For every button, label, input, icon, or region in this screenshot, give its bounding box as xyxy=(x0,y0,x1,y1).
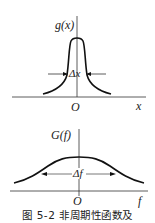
bottom-width-label: Δf xyxy=(72,168,84,179)
bottom-arrow-right-head xyxy=(110,172,116,176)
top-x-label: x xyxy=(136,100,141,112)
bottom-x-label: f xyxy=(138,195,141,207)
bottom-y-label: G(f) xyxy=(51,129,71,141)
top-width-label: Δx xyxy=(69,68,80,79)
bottom-arrow-left-head xyxy=(41,172,47,176)
figure-caption: 图 5-2 非周期性函数及 xyxy=(0,207,155,222)
top-origin-label: O xyxy=(71,101,80,113)
top-y-label: g(x) xyxy=(55,19,74,31)
bottom-origin-label: O xyxy=(73,195,82,207)
